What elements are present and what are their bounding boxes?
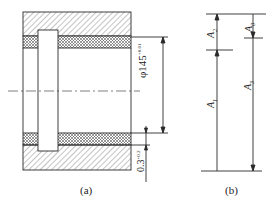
inner-slot xyxy=(38,30,58,151)
label-a2: A2 xyxy=(205,29,218,38)
gap-value: 0.3 xyxy=(135,160,146,173)
technical-drawing xyxy=(0,0,271,210)
label-a3: A3 xyxy=(242,81,255,90)
diameter-value: 145 xyxy=(136,55,148,72)
diameter-label: φ145+0.01 xyxy=(136,44,148,78)
diameter-upper-tol: +0.01 xyxy=(137,44,142,56)
diameter-symbol: φ xyxy=(136,72,148,78)
caption-b: (b) xyxy=(225,184,238,196)
gap-upper-tol: +0.2 xyxy=(136,150,141,159)
label-a1: A1 xyxy=(205,99,218,108)
caption-a: (a) xyxy=(80,184,92,196)
gap-label: 0.3+0.2 xyxy=(135,150,146,172)
label-a0: A0 xyxy=(243,23,256,32)
